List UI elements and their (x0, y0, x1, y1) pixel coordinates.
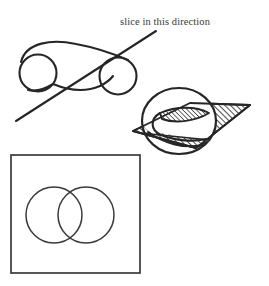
cross-section-right-circle (58, 187, 114, 243)
cross-section-frame-square (11, 155, 140, 273)
surface-lower-left-sweep (28, 84, 53, 91)
surface-inner-saddle-curve (53, 84, 100, 90)
surface-lower-right-sweep (100, 76, 113, 86)
figure-canvas: slice in this direction (0, 0, 269, 286)
lower-right-solid-group (133, 88, 250, 154)
upper-left-surface-group (20, 42, 137, 95)
slice-direction-annotation: slice in this direction (120, 17, 210, 28)
figure-drawing (0, 0, 269, 286)
cross-section-result-group (11, 155, 140, 273)
cross-section-left-circle (26, 187, 82, 243)
